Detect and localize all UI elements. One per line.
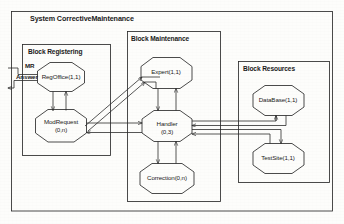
system-title: System CorrectiveMaintenance (30, 15, 134, 23)
process-handler-instances: (0,3) (161, 129, 173, 136)
block-resources-title: Block Resources (243, 66, 295, 73)
channel-mr-label: MR (25, 63, 34, 70)
block-maintenance-title: Block Maintenance (131, 36, 189, 43)
channel-handler-testsite (192, 130, 281, 144)
process-testsite-label: TestSite(1,1) (261, 155, 294, 162)
sdl-block-diagram-screenshot: System CorrectiveMaintenance Block Regis… (0, 0, 344, 224)
channel-handler-database (192, 116, 286, 126)
process-expert-label: Expert(1,1) (151, 69, 181, 76)
channel-answer-label: Answer (16, 74, 38, 81)
channel-handler-correction (158, 142, 176, 164)
block-registering-title: Block Registering (28, 49, 82, 56)
process-modrequest-instances: (0,n) (55, 127, 67, 134)
diagram-canvas (0, 0, 344, 224)
process-correction-label: Correction(0,n) (147, 175, 187, 182)
process-regoffice-label: RegOffice(1,1) (42, 74, 81, 81)
process-modrequest-label: ModRequest (44, 119, 78, 126)
channel-regoffice-modrequest (53, 92, 66, 111)
channel-modrequest-handler (87, 123, 143, 133)
process-handler-label: Handler (157, 121, 178, 128)
block-resources-box (239, 62, 330, 183)
channel-expert-handler (158, 89, 176, 111)
block-registering-box (23, 45, 111, 156)
process-database-label: DataBase(1,1) (259, 97, 298, 104)
